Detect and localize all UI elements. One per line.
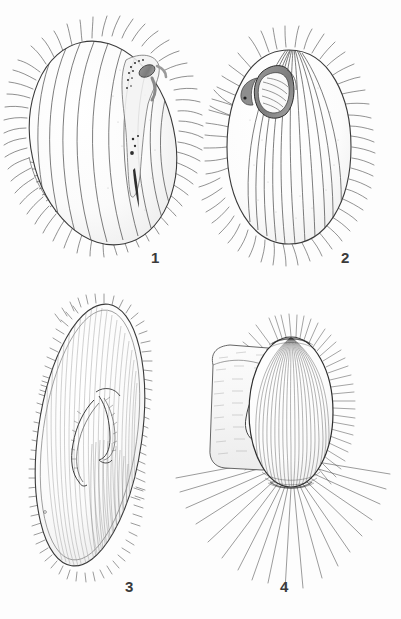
figure-3-number: 3: [125, 578, 134, 595]
figure-1-artwork: [4, 16, 203, 259]
figure-4-number: 4: [280, 578, 289, 595]
figure-4-artwork: [176, 314, 390, 590]
figure-3-artwork: [20, 294, 160, 582]
figure-2-number: 2: [341, 249, 350, 266]
plate-artwork: [0, 0, 401, 619]
figure-3-body: [20, 297, 160, 573]
figure-1-number: 1: [151, 249, 160, 266]
figure-2-artwork: [199, 26, 375, 266]
illustration-plate: 1 2 3 4: [0, 0, 401, 619]
